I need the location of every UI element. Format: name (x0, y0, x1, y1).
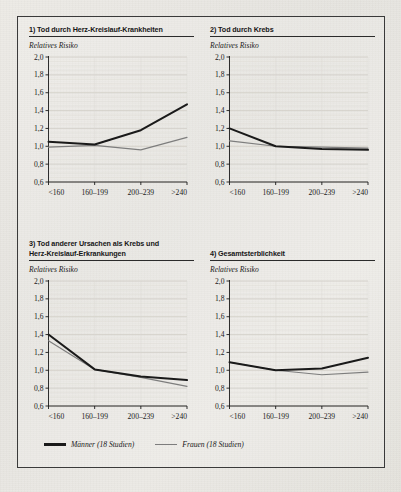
svg-text:1,6: 1,6 (34, 312, 44, 321)
panel-3-svg: 0,60,81,01,21,41,61,82,0<160160–199200–2… (29, 275, 192, 425)
svg-text:0,6: 0,6 (215, 402, 225, 411)
svg-text:1,4: 1,4 (215, 330, 225, 339)
figure-legend: Männer (18 Studien) Frauen (18 Studien) (44, 440, 244, 449)
panel-1-ylabel: Relatives Risiko (29, 41, 194, 50)
svg-text:1,0: 1,0 (215, 366, 225, 375)
legend-label-frauen: Frauen (18 Studien) (182, 440, 244, 449)
panel-4-plot: 0,60,81,01,21,41,61,82,0<160160–199200–2… (210, 275, 373, 425)
svg-text:1,4: 1,4 (34, 106, 44, 115)
panel-2-title: 2) Tod durch Krebs (210, 25, 375, 37)
figure-frame: 1) Tod durch Herz-Kreislauf-Krankheiten … (17, 16, 385, 468)
svg-text:200–239: 200–239 (128, 411, 155, 420)
panel-4-title-rule (210, 260, 375, 261)
svg-text:0,6: 0,6 (34, 401, 44, 410)
panel-4-title: 4) Gesamtsterblichkeit (210, 249, 375, 261)
svg-text:1,0: 1,0 (215, 142, 225, 151)
panel-2-title-rule (210, 36, 375, 37)
svg-text:1,2: 1,2 (215, 124, 225, 133)
panel-3-ylabel: Relatives Risiko (29, 265, 194, 274)
panel-3-title: 3) Tod anderer Ursachen als Krebs und He… (29, 239, 194, 261)
legend-item-frauen: Frauen (18 Studien) (155, 440, 244, 449)
panel-1-plot: 0,60,81,01,21,41,61,82,0<160160–199200–2… (29, 51, 192, 201)
svg-text:1,6: 1,6 (215, 88, 225, 97)
panel-4-ylabel: Relatives Risiko (210, 265, 375, 274)
legend-item-maenner: Männer (18 Studien) (44, 440, 134, 449)
legend-label-maenner: Männer (18 Studien) (71, 440, 134, 449)
panel-2-ylabel: Relatives Risiko (210, 41, 375, 50)
svg-text:200–239: 200–239 (309, 188, 336, 197)
panel-1: 1) Tod durch Herz-Kreislauf-Krankheiten … (29, 25, 194, 201)
svg-text:1,4: 1,4 (34, 330, 44, 339)
svg-text:1,8: 1,8 (34, 71, 44, 80)
svg-text:<160: <160 (49, 188, 65, 197)
svg-text:2,0: 2,0 (215, 53, 225, 62)
panel-4: 4) Gesamtsterblichkeit Relatives Risiko … (210, 249, 375, 425)
svg-text:0,8: 0,8 (34, 383, 44, 392)
svg-text:1,8: 1,8 (215, 295, 225, 304)
panel-3: 3) Tod anderer Ursachen als Krebs und He… (29, 239, 194, 425)
svg-text:<160: <160 (230, 188, 246, 197)
svg-text:160–199: 160–199 (262, 188, 289, 197)
svg-text:<160: <160 (49, 411, 65, 420)
svg-text:160–199: 160–199 (81, 411, 108, 420)
svg-text:1,4: 1,4 (215, 106, 225, 115)
svg-text:>240: >240 (171, 188, 187, 197)
svg-text:2,0: 2,0 (34, 276, 44, 285)
svg-text:0,8: 0,8 (34, 160, 44, 169)
svg-text:1,2: 1,2 (34, 348, 44, 357)
svg-text:2,0: 2,0 (34, 53, 44, 62)
panel-2-svg: 0,60,81,01,21,41,61,82,0<160160–199200–2… (210, 51, 373, 201)
svg-text:1,8: 1,8 (34, 294, 44, 303)
legend-line-frauen-icon (155, 444, 177, 445)
panel-3-plot: 0,60,81,01,21,41,61,82,0<160160–199200–2… (29, 275, 192, 425)
svg-text:160–199: 160–199 (81, 188, 108, 197)
svg-text:200–239: 200–239 (128, 188, 155, 197)
svg-text:1,2: 1,2 (215, 348, 225, 357)
svg-text:>240: >240 (171, 411, 187, 420)
svg-text:1,0: 1,0 (34, 142, 44, 151)
panel-1-title: 1) Tod durch Herz-Kreislauf-Krankheiten (29, 25, 194, 37)
panel-1-svg: 0,60,81,01,21,41,61,82,0<160160–199200–2… (29, 51, 192, 201)
legend-line-maenner-icon (44, 443, 66, 445)
svg-text:1,0: 1,0 (34, 366, 44, 375)
svg-text:200–239: 200–239 (309, 412, 336, 421)
svg-text:>240: >240 (352, 412, 368, 421)
svg-text:0,8: 0,8 (215, 160, 225, 169)
svg-text:1,8: 1,8 (215, 71, 225, 80)
svg-text:1,2: 1,2 (34, 124, 44, 133)
svg-text:2,0: 2,0 (215, 277, 225, 286)
svg-text:>240: >240 (352, 188, 368, 197)
svg-text:0,6: 0,6 (215, 178, 225, 187)
panel-1-title-rule (29, 36, 194, 37)
svg-text:160–199: 160–199 (262, 412, 289, 421)
svg-text:0,8: 0,8 (215, 384, 225, 393)
panel-2-plot: 0,60,81,01,21,41,61,82,0<160160–199200–2… (210, 51, 373, 201)
svg-text:1,6: 1,6 (215, 312, 225, 321)
svg-text:1,6: 1,6 (34, 88, 44, 97)
panel-4-svg: 0,60,81,01,21,41,61,82,0<160160–199200–2… (210, 275, 373, 425)
panel-3-title-rule (29, 260, 194, 261)
panel-2: 2) Tod durch Krebs Relatives Risiko 0,60… (210, 25, 375, 201)
svg-text:0,6: 0,6 (34, 178, 44, 187)
svg-text:<160: <160 (230, 412, 246, 421)
